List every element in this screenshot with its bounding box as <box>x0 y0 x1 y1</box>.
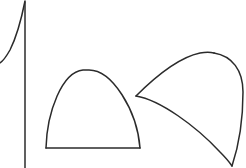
line-drawing-svg <box>0 0 246 168</box>
sail-figure <box>136 52 243 166</box>
diagram-canvas <box>0 0 246 168</box>
dome-figure <box>46 70 140 148</box>
sail-lower-curve <box>136 96 232 166</box>
dome-arc <box>46 70 140 148</box>
sail-upper-curve <box>136 52 214 96</box>
sail-right-curve <box>214 53 243 166</box>
asymptotic-curve <box>0 1 25 63</box>
asymptote-figure <box>0 1 25 168</box>
